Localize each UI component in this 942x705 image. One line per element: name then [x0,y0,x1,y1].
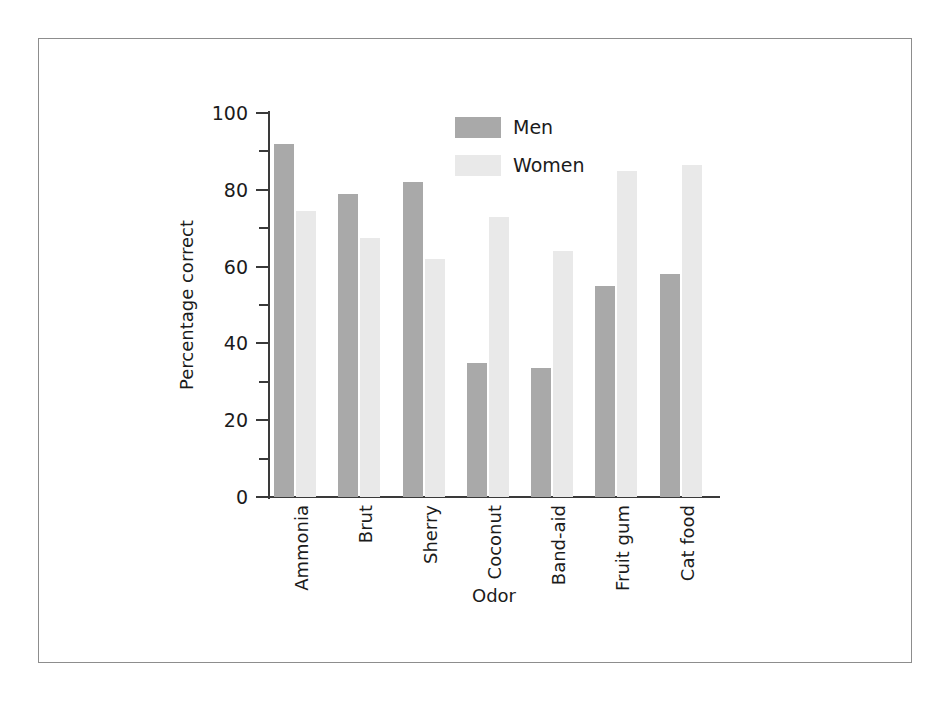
bar-men-brut [338,194,358,497]
bar-women-fruit-gum [617,171,637,497]
y-axis-major-tick [256,342,268,344]
x-axis-label-coconut: Coconut [486,505,504,579]
bar-men-fruit-gum [595,286,615,497]
y-axis-tick-label: 100 [212,104,248,123]
legend-label-women: Women [513,156,585,175]
y-axis-tick-label: 0 [236,488,248,507]
bar-women-cat-food [682,165,702,497]
y-axis-minor-tick [259,227,268,229]
x-axis-label-cat-food: Cat food [679,505,697,581]
bar-men-cat-food [660,274,680,497]
x-axis-label-ammonia: Ammonia [293,505,311,591]
bar-men-band-aid [531,368,551,497]
bar-women-sherry [425,259,445,497]
y-axis-major-tick [256,419,268,421]
bar-men-coconut [467,363,487,497]
x-axis-title: Odor [472,585,516,606]
y-axis-tick-labels: 020406080100 [150,0,248,705]
y-axis-major-tick [256,496,268,498]
y-axis-tick-label: 40 [224,334,248,353]
x-axis-label-brut: Brut [357,505,375,543]
x-axis-label-fruit-gum: Fruit gum [614,505,632,591]
legend-item-women: Women [455,150,585,180]
y-axis-minor-tick [259,150,268,152]
y-axis-tick-label: 60 [224,258,248,277]
legend-swatch-men [455,117,501,138]
bar-women-coconut [489,217,509,497]
legend-item-men: Men [455,112,585,142]
chart-legend: MenWomen [455,112,585,188]
bar-men-ammonia [274,144,294,497]
bar-men-sherry [403,182,423,497]
legend-label-men: Men [513,118,553,137]
y-axis-major-tick [256,189,268,191]
y-axis-tick-label: 80 [224,181,248,200]
y-axis-major-tick [256,266,268,268]
x-axis-label-band-aid: Band-aid [550,505,568,585]
x-axis-label-sherry: Sherry [422,505,440,564]
bar-women-brut [360,238,380,497]
y-axis-tick-label: 20 [224,411,248,430]
y-axis-title: Percentage correct [176,220,197,390]
figure-root: 020406080100 Percentage correct AmmoniaB… [0,0,942,705]
y-axis-minor-tick [259,381,268,383]
bar-women-band-aid [553,251,573,497]
y-axis-minor-tick [259,458,268,460]
bar-women-ammonia [296,211,316,497]
y-axis-major-tick [256,112,268,114]
legend-swatch-women [455,155,501,176]
y-axis-minor-tick [259,304,268,306]
